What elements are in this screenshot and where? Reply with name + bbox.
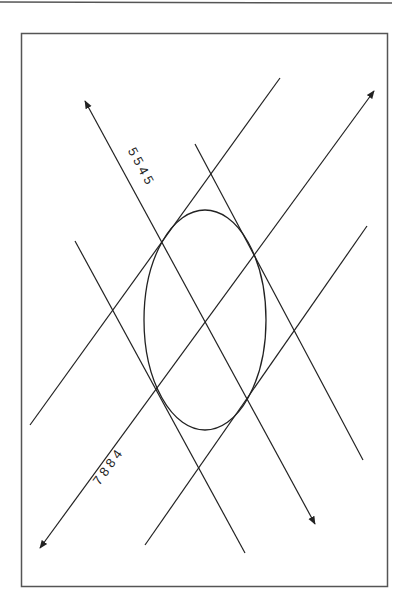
diagram-canvas: 5 5 4 5 7 8 8 4: [0, 0, 409, 607]
axis-a-label: 5 5 4 5: [125, 145, 157, 187]
top-rule: [0, 2, 392, 3]
tangent-line-b-upper: [30, 78, 280, 425]
tangent-line-a-left: [75, 241, 245, 553]
axis-b-label: 7 8 8 4: [90, 447, 126, 488]
tangent-line-b-lower: [145, 226, 367, 545]
diagram-frame: [22, 34, 388, 587]
